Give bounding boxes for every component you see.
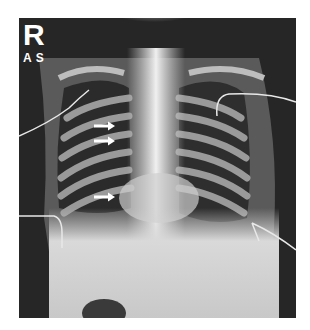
orientation-marker: R	[23, 20, 45, 50]
abdomen	[49, 208, 279, 318]
position-marker: AS	[23, 52, 48, 64]
chest-xray-image: R AS	[19, 18, 296, 318]
xray-drawing	[19, 18, 296, 318]
